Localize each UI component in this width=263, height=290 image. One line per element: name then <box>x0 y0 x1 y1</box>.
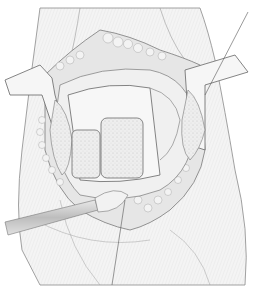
surgical-illustration <box>0 0 263 290</box>
bone-graft-right <box>101 118 143 178</box>
bone-graft-left <box>72 130 100 178</box>
